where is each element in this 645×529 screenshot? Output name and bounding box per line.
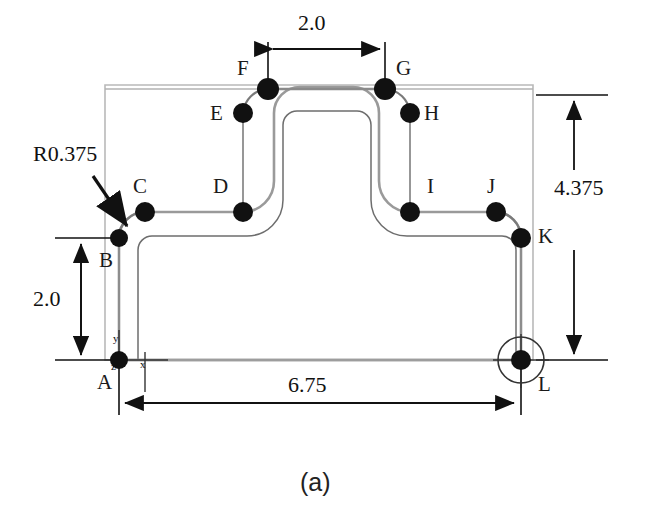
point-label-G: G xyxy=(396,58,411,79)
point-marker-E[interactable] xyxy=(233,103,253,123)
point-label-D: D xyxy=(213,176,228,197)
point-label-L: L xyxy=(538,374,551,395)
dimension-label-overall-height: 4.375 xyxy=(554,177,604,199)
radius-note-label: R0.375 xyxy=(33,143,97,165)
point-marker-H[interactable] xyxy=(400,103,420,123)
dimension-label-base-height: 2.0 xyxy=(33,288,61,310)
figure-caption: (a) xyxy=(300,470,331,495)
drawing-svg xyxy=(0,0,645,529)
point-marker-G[interactable] xyxy=(374,78,396,100)
point-label-I: I xyxy=(427,176,434,197)
point-marker-C[interactable] xyxy=(135,202,155,222)
point-label-B: B xyxy=(99,250,113,271)
axis-label-x: x xyxy=(140,359,146,370)
point-markers xyxy=(110,78,531,370)
point-marker-L[interactable] xyxy=(511,350,531,370)
axis-label-z: z xyxy=(111,361,116,372)
point-label-J: J xyxy=(487,176,495,197)
point-label-H: H xyxy=(424,103,439,124)
point-marker-F[interactable] xyxy=(257,78,279,100)
envelope-rectangle xyxy=(105,85,533,360)
radius-leader xyxy=(93,176,127,226)
point-label-K: K xyxy=(538,226,553,247)
part-profile-outer xyxy=(119,87,521,360)
point-marker-J[interactable] xyxy=(486,202,506,222)
part-profile-inner-offset xyxy=(138,111,516,360)
point-label-A: A xyxy=(97,372,112,393)
axis-label-y: y xyxy=(113,333,119,344)
point-marker-K[interactable] xyxy=(511,228,531,248)
point-label-E: E xyxy=(210,103,223,124)
point-marker-I[interactable] xyxy=(400,202,420,222)
point-marker-B[interactable] xyxy=(110,229,128,247)
point-label-C: C xyxy=(133,176,147,197)
dimension-label-top-width: 2.0 xyxy=(298,12,326,34)
point-marker-D[interactable] xyxy=(233,202,253,222)
dimension-label-overall-width: 6.75 xyxy=(288,374,327,396)
figure-canvas: A B C D E F G H I J K L 2.0 4.375 2.0 6.… xyxy=(0,0,645,529)
point-label-F: F xyxy=(237,58,249,79)
dimension-top-width xyxy=(268,42,385,83)
